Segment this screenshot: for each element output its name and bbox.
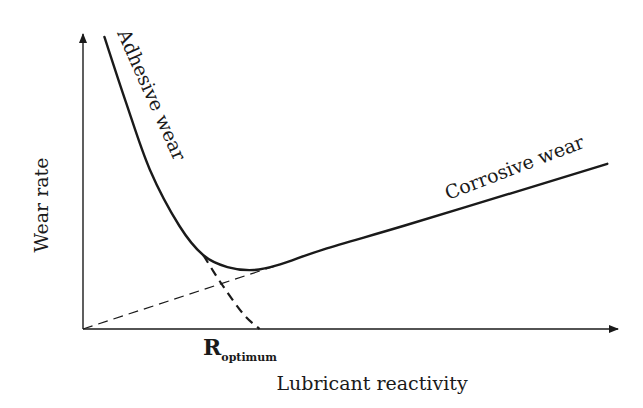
y-axis-label: Wear rate bbox=[30, 158, 52, 253]
series-corrosive-wear-extrapolated bbox=[83, 264, 281, 329]
r-optimum-subscript: optimum bbox=[221, 351, 277, 364]
x-axis-label: Lubricant reactivity bbox=[276, 372, 468, 394]
r-optimum-main: R bbox=[203, 334, 222, 360]
chart-root: Wear rate Lubricant reactivity Roptimum … bbox=[0, 0, 643, 408]
x-tick-label-r-optimum: Roptimum bbox=[203, 334, 277, 364]
series-layer bbox=[83, 37, 607, 329]
series-adhesive-wear-extrapolated bbox=[203, 255, 259, 329]
annotation-adhesive-wear: Adhesive wear bbox=[113, 25, 191, 165]
